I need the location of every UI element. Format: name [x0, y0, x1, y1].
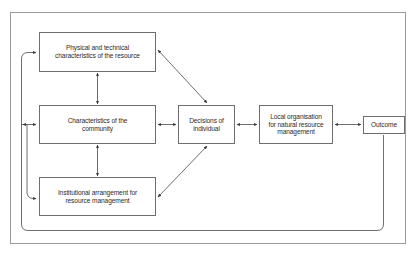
node-institutional-label: Institutional arrangement for resource m… [56, 189, 139, 205]
diagram-canvas: Physical and technical characteristics o… [0, 0, 416, 256]
node-local-organisation[interactable]: Local organisation for natural resource … [259, 105, 333, 144]
node-institutional-arrangement[interactable]: Institutional arrangement for resource m… [39, 177, 156, 216]
connector-feedback-branch-physical [22, 53, 37, 133]
node-outcome-label: Outcome [369, 121, 399, 129]
node-physical-technical-characteristics[interactable]: Physical and technical characteristics o… [39, 32, 156, 72]
connector-physical-decisions [158, 50, 207, 103]
node-community-label: Characteristics of the community [66, 117, 130, 133]
connector-institutional-decisions [158, 146, 207, 197]
node-community-characteristics[interactable]: Characteristics of the community [39, 105, 156, 144]
node-decisions-of-individual[interactable]: Decisions of individual [178, 105, 235, 144]
node-outcome[interactable]: Outcome [363, 116, 405, 134]
node-decisions-label: Decisions of individual [187, 117, 226, 133]
node-local-org-label: Local organisation for natural resource … [266, 113, 325, 136]
node-physical-label: Physical and technical characteristics o… [53, 44, 142, 60]
connector-feedback-branch-institutional [27, 125, 36, 199]
